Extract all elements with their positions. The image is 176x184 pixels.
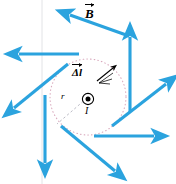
delta-l-fan-line-3 [99, 83, 110, 84]
figure-canvas [0, 0, 176, 184]
current-label: I [85, 106, 88, 116]
b-field-label: B [85, 3, 94, 20]
field-arrow-lower-right-diagonal [61, 126, 115, 171]
field-arrow-lower-left-diagonal [14, 64, 68, 108]
field-arrow-upper-left-diagonal [70, 15, 129, 36]
radius-label: r [61, 92, 65, 101]
physics-figure-ampere-law: B Δl r I [0, 0, 176, 184]
current-symbol-dot [86, 97, 91, 102]
delta-l-label-text: Δl [72, 66, 82, 78]
vector-arrow-overline-b [85, 4, 94, 5]
b-field-label-text: B [85, 6, 94, 21]
vector-arrow-overline-dl [72, 64, 82, 65]
radius-indicator [57, 98, 87, 124]
delta-l-label: Δl [72, 63, 82, 78]
delta-l-fan-line-2 [99, 79, 112, 83]
field-arrow-upper-right-diagonal [112, 84, 166, 126]
